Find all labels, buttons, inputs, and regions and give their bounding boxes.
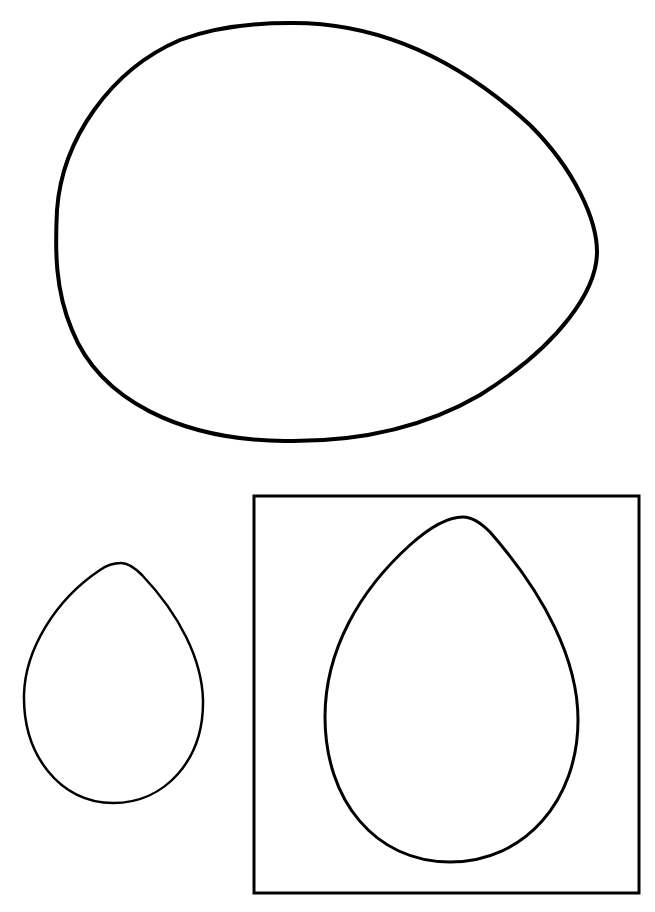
egg-template-canvas <box>0 0 655 912</box>
page-background <box>0 0 655 912</box>
